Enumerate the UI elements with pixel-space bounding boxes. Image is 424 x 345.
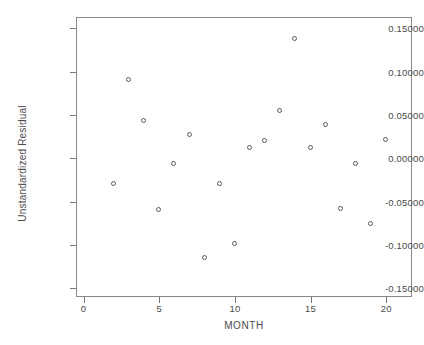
data-points-layer <box>0 0 424 345</box>
data-point <box>277 108 282 113</box>
data-point <box>308 145 313 150</box>
data-point <box>126 77 131 82</box>
data-point <box>217 181 222 186</box>
data-point <box>156 207 161 212</box>
data-point <box>262 138 267 143</box>
data-point <box>141 118 146 123</box>
data-point <box>232 241 237 246</box>
data-point <box>368 221 373 226</box>
data-point <box>292 36 297 41</box>
data-point <box>202 255 207 260</box>
scatter-plot-figure: Unstandardized Residual MONTH 0.150000.1… <box>0 0 424 345</box>
data-point <box>111 181 116 186</box>
data-point <box>323 122 328 127</box>
data-point <box>383 137 388 142</box>
data-point <box>338 206 343 211</box>
data-point <box>353 161 358 166</box>
data-point <box>247 145 252 150</box>
data-point <box>187 132 192 137</box>
data-point <box>171 161 176 166</box>
